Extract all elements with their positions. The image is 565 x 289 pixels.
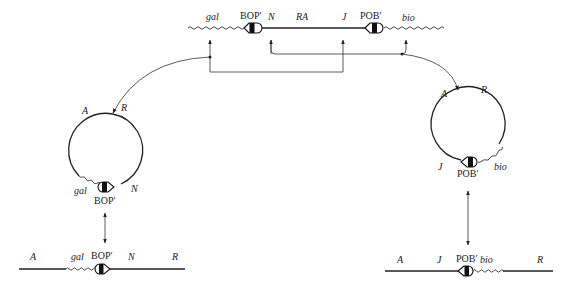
right-label-pob: POB′ — [457, 168, 479, 179]
curve-arrow-to-right-circle — [402, 54, 458, 90]
bl-label-bop: BOP′ — [91, 250, 113, 261]
bottom-left-chromosome: A gal BOP′ N R — [19, 250, 185, 274]
right-label-r: R — [480, 84, 487, 95]
bottom-right-chromosome: A J POB′ bio R — [385, 253, 553, 276]
bl-bop-site-icon — [95, 264, 110, 274]
br-label-j: J — [437, 254, 442, 265]
right-label-bio: bio — [494, 161, 507, 172]
left-label-a: A — [81, 105, 89, 116]
connector-gal-j — [210, 40, 343, 72]
curve-arrow-to-left-circle — [113, 57, 210, 113]
br-label-r: R — [536, 254, 543, 265]
bop-site-icon — [244, 23, 262, 33]
left-label-bop: BOP′ — [94, 195, 116, 206]
bl-label-n: N — [127, 251, 136, 262]
bl-label-a: A — [29, 251, 37, 262]
bio-wavy-segment — [384, 27, 444, 30]
top-prophage: gal BOP′ N RA J POB′ bio — [188, 10, 444, 72]
br-bio-wavy — [473, 270, 504, 273]
right-pob-site-icon — [461, 157, 477, 167]
right-label-a: A — [440, 88, 448, 99]
left-label-gal: gal — [74, 185, 87, 196]
label-bop: BOP′ — [240, 10, 262, 21]
pob-site-icon — [365, 23, 383, 33]
left-bop-site-icon — [98, 182, 114, 192]
left-circle-ring — [69, 113, 143, 184]
left-gal-wavy — [79, 176, 101, 184]
label-gal: gal — [206, 11, 219, 22]
left-circle: A R gal BOP′ N — [69, 102, 143, 206]
label-j: J — [342, 11, 347, 22]
br-label-a: A — [396, 254, 404, 265]
diagram-canvas: gal BOP′ N RA J POB′ bio A R gal BOP′ N — [0, 0, 565, 289]
connector-n-bio — [271, 40, 406, 54]
label-ra: RA — [295, 11, 309, 22]
br-label-pob: POB′ — [456, 253, 478, 264]
label-n: N — [267, 11, 276, 22]
label-pob: POB′ — [360, 10, 382, 21]
left-label-r: R — [120, 102, 127, 113]
br-label-bio: bio — [480, 254, 493, 265]
right-label-j: J — [438, 161, 443, 172]
bl-label-gal: gal — [71, 251, 84, 262]
bl-label-r: R — [171, 251, 178, 262]
right-circle: A R J POB′ bio — [431, 84, 507, 179]
left-label-n: N — [130, 183, 139, 194]
label-bio: bio — [402, 12, 415, 23]
br-pob-site-icon — [458, 266, 473, 276]
